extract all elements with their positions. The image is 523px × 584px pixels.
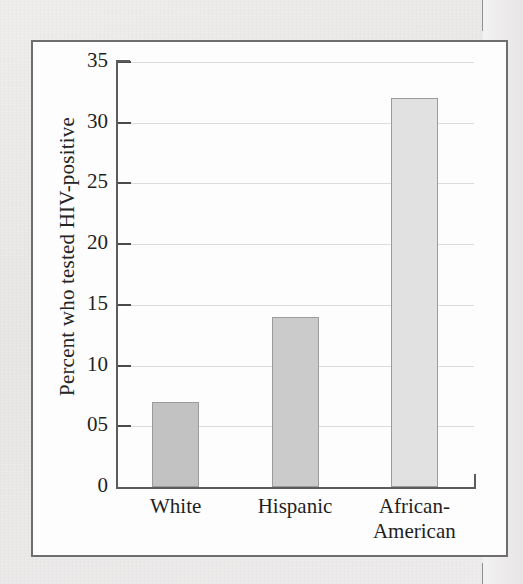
x-axis-label: White — [116, 494, 235, 519]
page-seam-bottom — [482, 563, 483, 584]
y-axis-tick-label: 0 — [42, 473, 108, 498]
y-axis-tick-label: 25 — [42, 169, 108, 194]
y-axis-tick-label: 20 — [42, 230, 108, 255]
x-axis-label-line: African- — [355, 494, 474, 519]
y-axis-tick-label: 15 — [42, 291, 108, 316]
bar — [152, 402, 199, 487]
bar — [391, 98, 438, 487]
x-axis-right-cap — [474, 474, 476, 489]
y-axis-tick-label: 30 — [42, 109, 108, 134]
x-axis-label-line: White — [116, 494, 235, 519]
page-seam-top — [482, 0, 483, 31]
x-axis-label: Hispanic — [235, 494, 354, 519]
plot-area — [116, 62, 474, 487]
bar — [272, 317, 319, 487]
y-axis-tick-label: 05 — [42, 412, 108, 437]
y-axis-tick-label: 10 — [42, 352, 108, 377]
chart-figure: Percent who tested HIV-positive 00510152… — [31, 40, 508, 557]
x-axis-spine — [116, 487, 476, 489]
x-axis-label-line: Hispanic — [235, 494, 354, 519]
x-axis-label: African-American — [355, 494, 474, 544]
y-axis-tick-label: 35 — [42, 48, 108, 73]
x-axis-label-line: American — [355, 519, 474, 544]
